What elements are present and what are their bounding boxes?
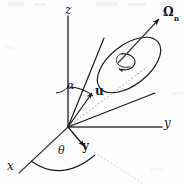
theta-angle-arc <box>31 155 95 171</box>
solid-angle-cone <box>68 26 170 127</box>
yvec-label: y <box>82 140 89 152</box>
omega-symbol: Ω <box>163 5 174 19</box>
omega-label: Ωn <box>163 6 179 21</box>
y-axis-label: y <box>164 117 171 129</box>
theta-angle-label: θ <box>58 145 65 156</box>
omega-subscript: n <box>174 14 179 23</box>
alpha-angle-label: α <box>67 80 74 91</box>
cone-lower-edge <box>68 93 155 127</box>
figure-container: z y x α θ u y Ωn <box>0 0 189 186</box>
u-vector-label: u <box>95 85 104 97</box>
x-axis-label: x <box>7 160 14 172</box>
omega-direction-arrow <box>118 19 159 63</box>
projection-dotted-line <box>94 152 142 183</box>
z-axis-label: z <box>65 4 71 16</box>
